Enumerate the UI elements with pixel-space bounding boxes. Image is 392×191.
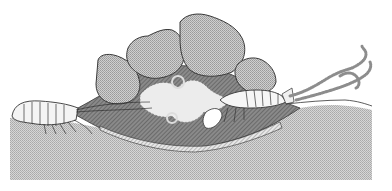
particle-plume <box>290 46 371 100</box>
crustacean-left-body <box>12 101 78 125</box>
rock-2 <box>127 29 185 78</box>
burrow-illustration <box>0 0 392 191</box>
rock-3 <box>180 14 245 76</box>
